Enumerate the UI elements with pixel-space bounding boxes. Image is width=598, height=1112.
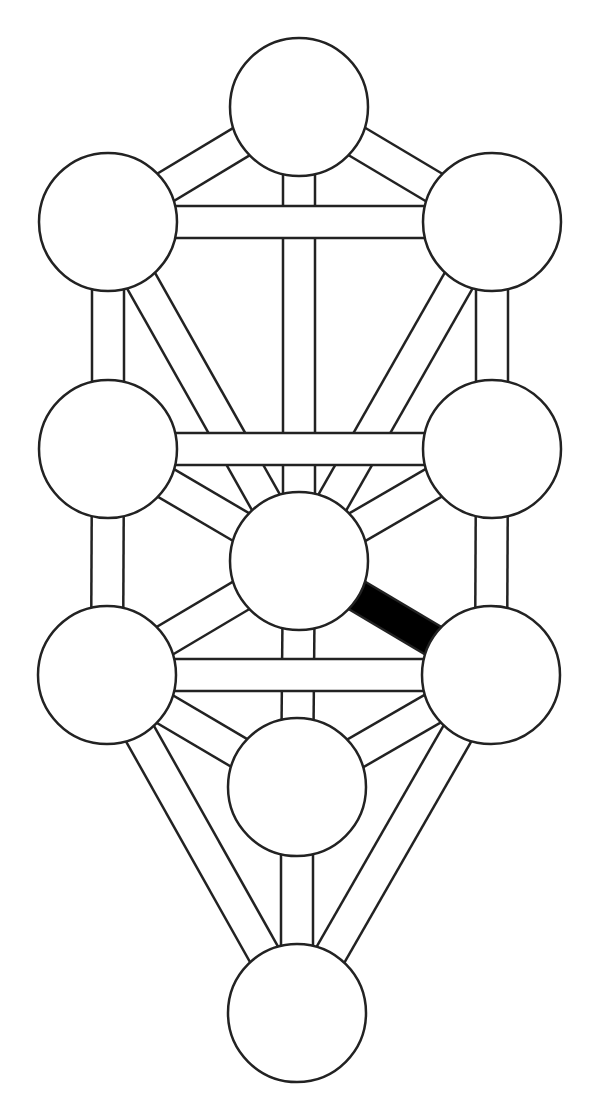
- sephirah-chesed: [423, 380, 561, 518]
- sephirah-hod: [38, 606, 176, 744]
- sephirah-yesod: [228, 718, 366, 856]
- sephirah-tiphareth: [230, 492, 368, 630]
- sephirah-geburah: [39, 380, 177, 518]
- sephirah-binah: [39, 153, 177, 291]
- tree-of-life-diagram: [0, 0, 598, 1112]
- sephirah-netzach: [422, 606, 560, 744]
- sephirah-malkuth: [228, 944, 366, 1082]
- sephirah-chokmah: [423, 153, 561, 291]
- sephirah-kether: [230, 38, 368, 176]
